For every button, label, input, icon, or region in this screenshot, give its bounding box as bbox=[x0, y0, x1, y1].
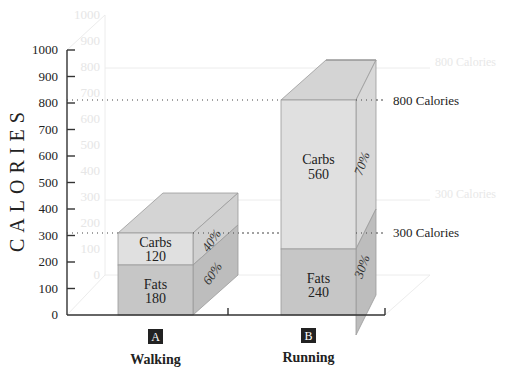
running-fats-name: Fats bbox=[307, 271, 330, 286]
ref-label-800: 800 Calories bbox=[393, 93, 459, 108]
walking-fats-name: Fats bbox=[144, 277, 167, 292]
ghost-y-tick-labels: 0 100 200 300 400 500 600 700 800 900 10… bbox=[74, 7, 100, 282]
svg-text:100: 100 bbox=[39, 281, 59, 296]
ghost-ref-800: 800 Calories bbox=[435, 55, 496, 69]
walking-carbs-value: 120 bbox=[145, 249, 166, 264]
category-running: Running bbox=[282, 350, 334, 365]
svg-text:100: 100 bbox=[81, 241, 101, 256]
svg-text:900: 900 bbox=[81, 33, 101, 48]
running-carbs-value: 560 bbox=[308, 167, 329, 182]
bar-walking bbox=[118, 193, 238, 315]
running-fats-value: 240 bbox=[308, 285, 329, 300]
y-axis-label: CALORIES bbox=[6, 106, 28, 252]
y-axis bbox=[67, 50, 75, 315]
calories-3d-bar-chart: 0 100 200 300 400 500 600 700 800 900 10… bbox=[0, 0, 515, 373]
svg-text:600: 600 bbox=[39, 148, 59, 163]
svg-text:600: 600 bbox=[81, 111, 101, 126]
badge-b-text: B bbox=[304, 329, 312, 343]
category-walking: Walking bbox=[130, 352, 181, 367]
svg-text:300: 300 bbox=[81, 189, 101, 204]
svg-text:300: 300 bbox=[39, 228, 59, 243]
walking-carbs-name: Carbs bbox=[139, 235, 172, 250]
svg-text:800: 800 bbox=[81, 59, 101, 74]
svg-text:1000: 1000 bbox=[74, 7, 100, 22]
svg-text:700: 700 bbox=[81, 85, 101, 100]
svg-text:0: 0 bbox=[52, 307, 59, 322]
badge-a-text: A bbox=[151, 330, 160, 344]
y-tick-labels: 0 100 200 300 400 500 600 700 800 900 10… bbox=[32, 42, 58, 322]
svg-text:200: 200 bbox=[39, 254, 59, 269]
svg-text:700: 700 bbox=[39, 122, 59, 137]
svg-text:1000: 1000 bbox=[32, 42, 58, 57]
svg-text:500: 500 bbox=[39, 175, 59, 190]
ghost-ref-300: 300 Calories bbox=[435, 187, 496, 201]
ref-label-300: 300 Calories bbox=[393, 225, 459, 240]
svg-text:500: 500 bbox=[81, 137, 101, 152]
svg-text:0: 0 bbox=[94, 267, 101, 282]
svg-text:900: 900 bbox=[39, 69, 59, 84]
svg-text:800: 800 bbox=[39, 95, 59, 110]
running-carbs-name: Carbs bbox=[302, 152, 335, 167]
svg-text:200: 200 bbox=[81, 215, 101, 230]
walking-fats-value: 180 bbox=[145, 291, 166, 306]
svg-text:400: 400 bbox=[81, 163, 101, 178]
svg-text:400: 400 bbox=[39, 201, 59, 216]
